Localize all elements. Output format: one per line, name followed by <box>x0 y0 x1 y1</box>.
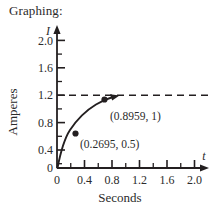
y-axis-major-ticks <box>57 40 65 150</box>
current-curve <box>58 97 114 168</box>
x-axis-symbol: t <box>202 149 206 163</box>
y-tick-label: 0.8 <box>38 116 53 130</box>
y-tick-label: 1.2 <box>38 88 53 102</box>
y-tick-label: 1.6 <box>38 61 53 75</box>
y-axis-arrow-icon <box>53 25 60 34</box>
x-tick-label: 2.0 <box>187 173 202 187</box>
x-axis-arrow-icon <box>200 164 209 171</box>
data-point-marker <box>72 130 78 136</box>
data-point-marker <box>101 96 107 102</box>
graph-figure: Graphing: <box>0 0 221 209</box>
x-axis-title: Seconds <box>98 190 141 205</box>
x-tick-label-zero: 0 <box>54 173 60 187</box>
x-tick-label: 1.2 <box>132 173 147 187</box>
x-axis-major-ticks <box>85 160 195 168</box>
data-point-annotation: (0.2695, 0.5) <box>80 138 140 151</box>
y-tick-label: 0.4 <box>38 143 53 157</box>
data-point-annotation: (0.8959, 1) <box>110 110 161 123</box>
x-tick-label: 0.4 <box>77 173 92 187</box>
y-tick-label-zero: 0 <box>47 161 53 175</box>
x-tick-label: 0.8 <box>105 173 120 187</box>
x-tick-label: 1.6 <box>160 173 175 187</box>
chart-plot-area: 2.0 1.6 1.2 0.8 0.4 0 0 0.4 0.8 1.2 1.6 … <box>0 0 221 209</box>
y-axis-title: Amperes <box>5 89 20 136</box>
